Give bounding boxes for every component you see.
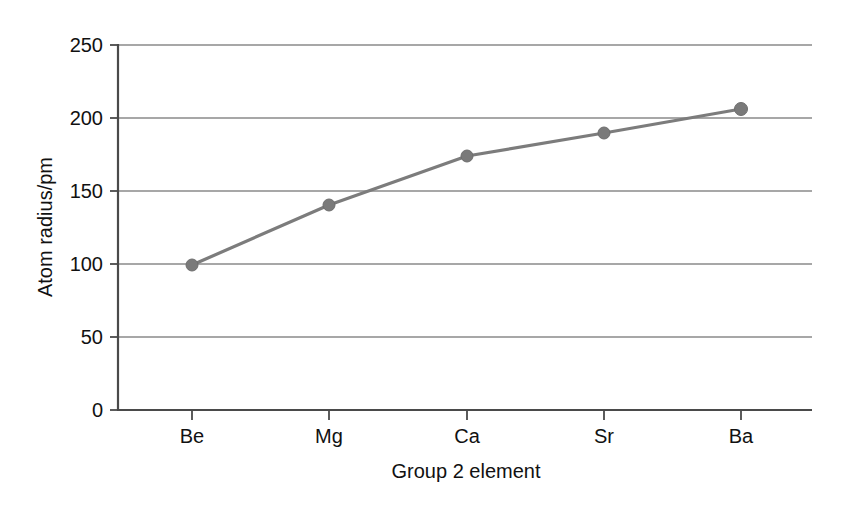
x-tick-labels: Be Mg Ca Sr Ba [180, 425, 754, 447]
y-axis-title: Atom radius/pm [34, 157, 56, 297]
gridlines [118, 45, 812, 337]
data-point-ca [461, 150, 473, 162]
x-tick-label-mg: Mg [315, 425, 343, 447]
data-point-mg [323, 199, 335, 211]
y-tick-label-0: 0 [92, 399, 103, 421]
y-tick-label-100: 100 [70, 253, 103, 275]
y-tick-label-200: 200 [70, 107, 103, 129]
x-tick-marks [192, 410, 741, 420]
y-tick-label-250: 250 [70, 34, 103, 56]
x-tick-label-sr: Sr [594, 425, 614, 447]
chart-figure: 250 200 150 100 50 0 Be Mg Ca Sr Ba Atom… [0, 0, 841, 506]
x-tick-label-ca: Ca [454, 425, 480, 447]
x-tick-label-be: Be [180, 425, 204, 447]
data-point-ba [735, 103, 748, 116]
x-axis-title: Group 2 element [392, 460, 541, 482]
data-point-sr [598, 127, 610, 139]
y-tick-label-150: 150 [70, 180, 103, 202]
y-tick-marks [110, 45, 118, 410]
axes [117, 44, 812, 411]
y-tick-labels: 250 200 150 100 50 0 [70, 34, 103, 421]
y-tick-label-50: 50 [81, 326, 103, 348]
data-series-atom-radius [186, 103, 748, 272]
series-line [192, 109, 741, 265]
line-chart: 250 200 150 100 50 0 Be Mg Ca Sr Ba Atom… [0, 0, 841, 506]
data-point-be [186, 259, 198, 271]
x-tick-label-ba: Ba [729, 425, 754, 447]
